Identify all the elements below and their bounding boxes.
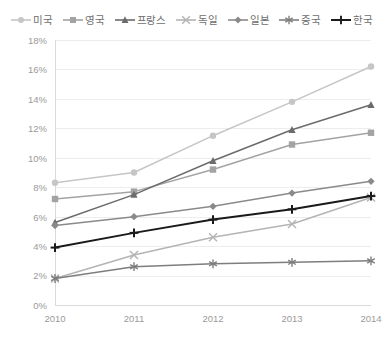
y-axis-tick-label: 12% bbox=[28, 123, 48, 134]
marker-diamond bbox=[130, 213, 137, 220]
x-axis-tick-label: 2013 bbox=[281, 313, 302, 324]
marker-diamond bbox=[367, 178, 374, 185]
marker-circle bbox=[52, 180, 58, 186]
marker-diamond bbox=[51, 222, 58, 229]
marker-circle bbox=[131, 169, 137, 175]
series-6 bbox=[51, 256, 375, 282]
marker-square bbox=[210, 166, 216, 172]
x-axis-tick-label: 2014 bbox=[360, 313, 381, 324]
y-axis-tick-label: 8% bbox=[33, 182, 47, 193]
series-line bbox=[55, 67, 371, 183]
y-axis-tick-label: 6% bbox=[33, 212, 47, 223]
marker-circle bbox=[210, 132, 216, 138]
line-chart: 미국영국프랑스독일일본중국한국 0%2%4%6%8%10%12%14%16%18… bbox=[0, 0, 383, 342]
y-axis-tick-label: 18% bbox=[28, 35, 48, 46]
chart-plot-area: 0%2%4%6%8%10%12%14%16%18%201020112012201… bbox=[0, 0, 383, 342]
marker-square bbox=[289, 141, 295, 147]
y-axis-tick-label: 2% bbox=[33, 270, 47, 281]
y-axis-tick-label: 4% bbox=[33, 241, 47, 252]
marker-square bbox=[52, 196, 58, 202]
x-axis-tick-label: 2010 bbox=[44, 313, 65, 324]
y-axis-tick-label: 0% bbox=[33, 300, 47, 311]
x-axis-tick-label: 2011 bbox=[124, 313, 144, 324]
marker-circle bbox=[289, 99, 295, 105]
y-axis-tick-label: 10% bbox=[28, 153, 48, 164]
marker-circle bbox=[368, 63, 374, 69]
y-axis-tick-label: 16% bbox=[28, 64, 48, 75]
series-7 bbox=[51, 192, 376, 252]
marker-square bbox=[368, 130, 374, 136]
series-2 bbox=[52, 130, 374, 203]
y-axis-tick-label: 14% bbox=[28, 94, 48, 105]
marker-diamond bbox=[288, 189, 295, 196]
marker-diamond bbox=[209, 203, 216, 210]
x-axis-tick-label: 2012 bbox=[202, 313, 223, 324]
marker-triangle bbox=[367, 101, 374, 108]
